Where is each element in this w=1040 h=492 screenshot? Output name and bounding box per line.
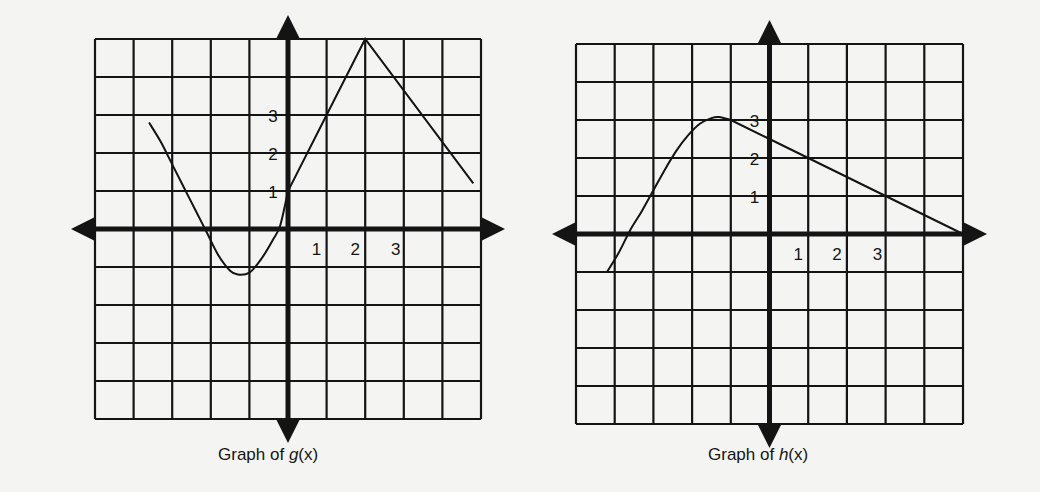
caption-h-fn: h [779, 445, 788, 464]
x-tick-label: 2 [832, 245, 841, 264]
caption-g-suffix: (x) [298, 445, 318, 464]
arrow-right-icon [963, 222, 987, 246]
arrow-up-icon [758, 20, 782, 44]
caption-h-suffix: (x) [788, 445, 808, 464]
x-tick-label: 3 [873, 245, 882, 264]
h-curve [607, 117, 963, 272]
x-tick-label: 1 [793, 245, 802, 264]
graph-h: 123123 [0, 0, 1040, 440]
y-tick-label: 2 [750, 150, 759, 169]
y-tick-label: 1 [750, 188, 759, 207]
y-tick-label: 3 [750, 112, 759, 131]
arrow-left-icon [552, 222, 576, 246]
caption-h-prefix: Graph of [708, 445, 779, 464]
caption-g-fn: g [289, 445, 298, 464]
caption-g: Graph of g(x) [218, 445, 318, 465]
caption-g-prefix: Graph of [218, 445, 289, 464]
caption-h: Graph of h(x) [708, 445, 808, 465]
graph-h-plot: 123123 [0, 0, 1040, 440]
